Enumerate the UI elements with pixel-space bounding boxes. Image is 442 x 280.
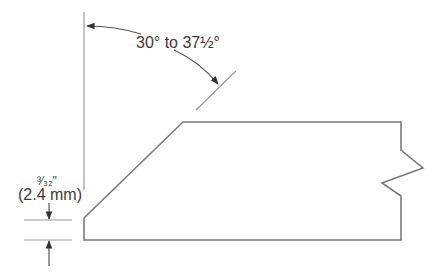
angle-arrow-upper <box>87 26 141 34</box>
angle-arrow-lower <box>174 50 218 84</box>
plate-outline <box>84 122 423 240</box>
bevel-diagram <box>0 0 442 280</box>
root-face-metric-label: (2.4 mm) <box>18 186 82 204</box>
bevel-extension-line <box>196 71 236 110</box>
angle-label: 30° to 37½° <box>136 34 220 52</box>
